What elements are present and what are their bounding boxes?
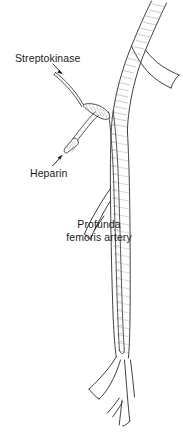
illustration-figure: Streptokinase Heparin Profunda femoris a… [0,0,183,434]
iliac-side-branch [132,46,180,88]
anatomical-diagram-svg [0,0,183,434]
streptokinase-infusion-line [54,73,83,107]
heparin-line-shading [76,119,93,137]
vessel-anatomy [85,1,180,426]
streptokinase-arrowhead [57,70,62,74]
label-heparin: Heparin [30,167,67,180]
heparin-infusion-line [73,112,99,142]
popliteal-bifurcation [89,357,135,426]
common-femoral-artery [111,1,166,131]
label-profunda-femoris-artery: Profunda femoris artery [57,218,141,243]
label-profunda-line-1: Profunda [57,218,141,231]
label-streptokinase: Streptokinase [15,52,81,65]
label-profunda-line-2: femoris artery [57,231,141,244]
